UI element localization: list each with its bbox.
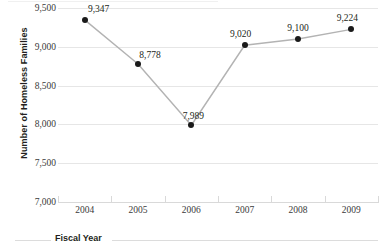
y-axis-tick-label: 9,500: [0, 3, 56, 13]
data-point-marker: [82, 17, 88, 23]
bottom-rule-left: [15, 240, 51, 241]
x-axis-tick: [111, 196, 112, 203]
y-axis-tick-label: 8,500: [0, 81, 56, 91]
data-point-marker: [242, 42, 248, 48]
x-axis-tick-label: 2007: [217, 205, 273, 216]
x-axis-tick: [58, 196, 59, 203]
x-axis-tick-label: 2008: [270, 205, 326, 216]
data-point-label: 8,778: [128, 50, 172, 60]
x-axis-tick-label: 2005: [110, 205, 166, 216]
bottom-rule-right: [112, 240, 378, 241]
x-axis-tick: [378, 196, 379, 203]
data-point-marker: [295, 36, 301, 42]
top-edge-rule: [8, 1, 218, 2]
y-axis-tick-label: 7,500: [0, 158, 56, 168]
line-chart: Number of Homeless Families 9,5009,0008,…: [0, 0, 382, 247]
x-axis-title: Fiscal Year: [55, 232, 102, 244]
data-point-label: 9,224: [325, 13, 369, 23]
data-point-label: 9,347: [77, 4, 121, 14]
data-point-label: 9,100: [276, 23, 320, 33]
data-point-label: 9,020: [219, 29, 263, 39]
x-axis-tick: [325, 196, 326, 203]
y-axis-tick-label: 7,000: [0, 197, 56, 207]
x-axis-tick-label: 2004: [57, 205, 113, 216]
x-axis-tick: [165, 196, 166, 203]
data-point-label: 7,989: [171, 111, 215, 121]
data-point-marker: [135, 61, 141, 67]
x-axis-tick: [271, 196, 272, 203]
y-axis-title: Number of Homeless Families: [19, 3, 29, 183]
y-axis-tick-label: 9,000: [0, 42, 56, 52]
y-axis-tick-label: 8,000: [0, 119, 56, 129]
x-axis-tick-label: 2006: [163, 205, 219, 216]
x-axis-tick-label: 2009: [323, 205, 379, 216]
plot-area: 9,3478,7787,9899,0209,1009,224: [58, 8, 378, 202]
x-axis-tick: [218, 196, 219, 203]
